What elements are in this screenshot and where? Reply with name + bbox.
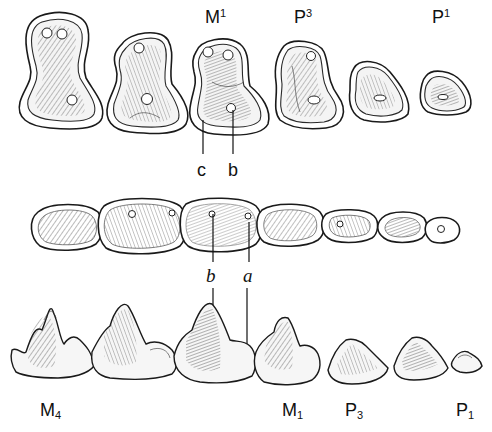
upper-teeth-row (19, 12, 471, 135)
upper-tooth-p1 (420, 71, 471, 115)
lower-occlusal-tooth-m1 (180, 198, 262, 252)
upper-tooth-p3 (275, 41, 343, 129)
lower-lateral-tooth-m1 (254, 318, 320, 385)
upper-tooth (107, 33, 188, 134)
pointer-label-b-lower: b (206, 265, 216, 286)
lower-lateral-tooth (92, 304, 177, 379)
lower-lateral-tooth (174, 303, 256, 382)
upper-tooth (19, 12, 103, 129)
lower-occlusal-tooth (31, 205, 102, 251)
lower-occlusal-tooth (257, 204, 324, 246)
lower-occlusal-tooth (322, 210, 378, 243)
lower-labels: M4 M1 P3 P1 (40, 400, 474, 421)
upper-tooth (350, 62, 409, 122)
label-M1-lower: M1 (282, 400, 303, 421)
lower-occlusal-tooth (378, 212, 427, 243)
label-M1-upper: M1 (205, 7, 226, 27)
label-P3-lower: P3 (345, 400, 363, 421)
label-P1-lower: P1 (456, 400, 474, 421)
lower-occlusal-tooth (425, 218, 459, 244)
upper-tooth-m1 (190, 39, 269, 135)
pointer-label-c: c (197, 160, 206, 180)
lower-occlusal-tooth (98, 199, 186, 254)
label-P3-upper: P3 (294, 7, 312, 27)
lower-lateral-tooth-p1 (451, 351, 482, 372)
lower-lateral-tooth (394, 337, 448, 380)
lower-occlusal-row (31, 198, 459, 254)
upper-labels: M1 P3 P1 (205, 7, 450, 27)
pointer-label-b: b (228, 160, 238, 180)
dental-figure: M1 P3 P1 c b (0, 0, 492, 432)
label-P1-upper: P1 (432, 7, 450, 27)
pointer-label-a-lower: a (243, 265, 253, 286)
lower-lateral-tooth-m4 (11, 309, 94, 378)
label-M4-lower: M4 (40, 400, 61, 421)
lower-lateral-tooth-p3 (328, 339, 388, 384)
